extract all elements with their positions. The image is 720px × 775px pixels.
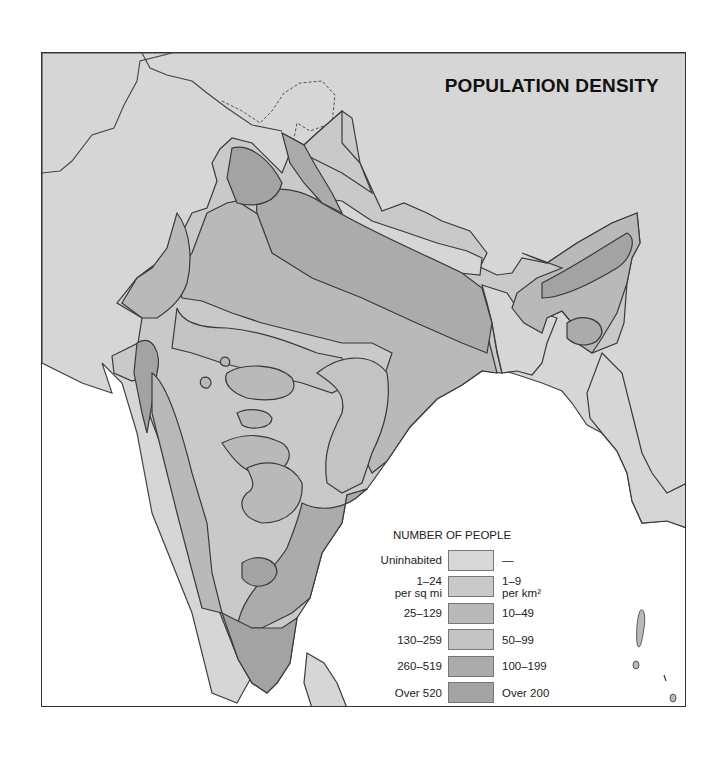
map-title: POPULATION DENSITY [445,75,659,97]
legend-label-persqmi: Over 520 [362,687,448,699]
legend-label-persqmi: 25–129 [362,607,448,619]
legend-label-persqmi: 1–24per sq mi [362,575,448,599]
legend-label-perkm2: 1–9per km² [494,575,541,599]
legend-swatch [448,656,494,677]
legend-label-perkm2: 50–99 [494,634,534,646]
legend-swatch [448,603,494,624]
legend-label-perkm2: Over 200 [494,687,549,699]
legend-heading: NUMBER OF PEOPLE [362,529,542,541]
legend-row-uninhabited: Uninhabited — [362,547,592,574]
legend-row-260-519: 260–519 100–199 [362,653,592,680]
legend-swatch [448,550,494,571]
legend-label-persqmi: Uninhabited [362,554,448,566]
legend-swatch [448,576,494,597]
island-small [633,661,639,669]
legend-row-over-520: Over 520 Over 200 [362,680,592,707]
legend-row-1-24: 1–24per sq mi 1–9per km² [362,574,592,601]
legend-row-130-259: 130–259 50–99 [362,627,592,654]
nicobar-island [670,694,676,702]
legend-swatch [448,682,494,703]
legend-swatch [448,629,494,650]
legend-label-perkm2: — [494,554,514,566]
legend-row-25-129: 25–129 10–49 [362,600,592,627]
legend: NUMBER OF PEOPLE Uninhabited — 1–24per s… [362,529,592,706]
map-frame: POPULATION DENSITY NUMBER OF PEOPLE Unin… [41,52,686,707]
legend-label-perkm2: 10–49 [494,607,534,619]
legend-label-persqmi: 130–259 [362,634,448,646]
legend-label-perkm2: 100–199 [494,660,547,672]
legend-label-persqmi: 260–519 [362,660,448,672]
